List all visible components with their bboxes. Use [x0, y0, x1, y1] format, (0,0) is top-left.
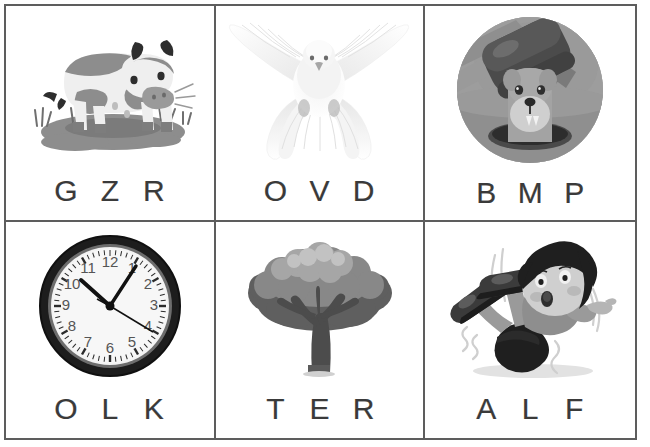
worksheet-cell-dove[interactable]: O V D: [216, 6, 426, 222]
cow-illustration: [15, 14, 205, 164]
svg-text:2: 2: [144, 275, 152, 292]
letter-option[interactable]: E: [297, 394, 341, 424]
svg-text:6: 6: [106, 339, 114, 356]
worksheet-cell-mole[interactable]: B M P: [425, 6, 635, 222]
letter-option[interactable]: M: [508, 178, 552, 208]
wall-clock-illustration: 12 1 2 3 4 5 6 7 8 9 10 11: [36, 232, 184, 380]
letter-choices-dove: O V D: [216, 168, 424, 220]
letter-option[interactable]: R: [132, 176, 176, 206]
tree-illustration: [234, 231, 404, 381]
tree-picture: [216, 222, 424, 386]
whack-a-mole-picture: [425, 6, 635, 170]
letter-option[interactable]: O: [253, 176, 297, 206]
letter-option[interactable]: G: [44, 176, 88, 206]
letter-option[interactable]: Z: [88, 176, 132, 206]
letter-option[interactable]: T: [253, 394, 297, 424]
worksheet-grid: G Z R: [4, 4, 637, 440]
letter-choices-clock: O L K: [6, 386, 214, 438]
letter-option[interactable]: P: [552, 178, 596, 208]
letter-option[interactable]: L: [508, 394, 552, 424]
svg-text:5: 5: [128, 333, 136, 350]
letter-option[interactable]: B: [464, 178, 508, 208]
falling-boy-picture: [425, 222, 635, 386]
letter-choices-fall: A L F: [425, 386, 635, 438]
letter-option[interactable]: O: [44, 394, 88, 424]
letter-option[interactable]: A: [464, 394, 508, 424]
svg-text:11: 11: [80, 259, 96, 276]
worksheet-cell-fall[interactable]: A L F: [425, 222, 635, 438]
letter-option[interactable]: L: [88, 394, 132, 424]
svg-text:12: 12: [101, 253, 118, 270]
svg-text:10: 10: [63, 275, 80, 292]
worksheet-cell-cow[interactable]: G Z R: [6, 6, 216, 222]
svg-text:8: 8: [68, 317, 76, 334]
letter-option[interactable]: R: [341, 394, 385, 424]
falling-boy-illustration: [437, 231, 623, 381]
clock-picture: 12 1 2 3 4 5 6 7 8 9 10 11: [6, 222, 214, 386]
worksheet-cell-clock[interactable]: 12 1 2 3 4 5 6 7 8 9 10 11: [6, 222, 216, 438]
letter-choices-cow: G Z R: [6, 168, 214, 220]
letter-option[interactable]: K: [132, 394, 176, 424]
dove-picture: [216, 6, 424, 168]
cow-picture: [6, 6, 214, 168]
worksheet-cell-tree[interactable]: T E R: [216, 222, 426, 438]
whack-a-mole-illustration: [450, 10, 610, 170]
svg-text:7: 7: [84, 333, 92, 350]
letter-choices-tree: T E R: [216, 386, 424, 438]
svg-text:3: 3: [150, 296, 158, 313]
letter-option[interactable]: F: [552, 394, 596, 424]
letter-option[interactable]: V: [297, 176, 341, 206]
letter-option[interactable]: D: [341, 176, 385, 206]
svg-text:9: 9: [62, 296, 70, 313]
dove-illustration: [224, 13, 414, 165]
letter-choices-mole: B M P: [425, 170, 635, 222]
